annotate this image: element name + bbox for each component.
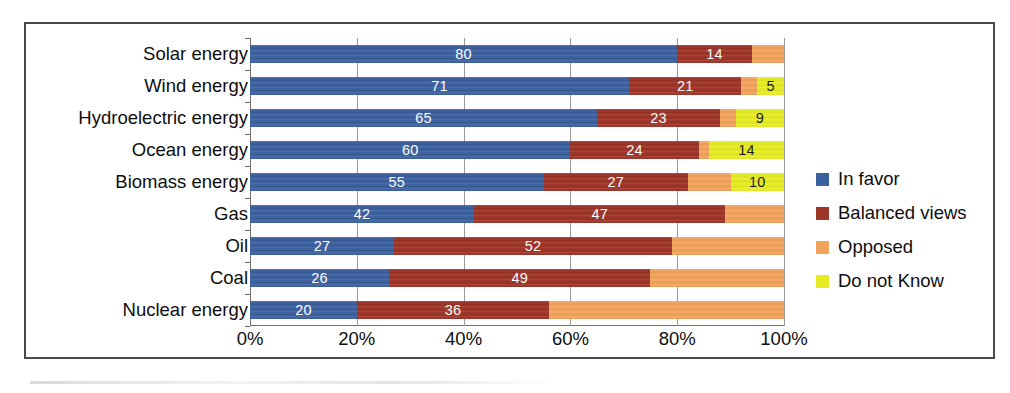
bar-segment-balanced-views[interactable]: 23 [597,109,720,127]
y-tick-mark [245,294,250,295]
x-tick-label-60%: 60% [552,330,589,349]
y-tick-mark [245,166,250,167]
x-axis-tick-labels: 0%20%40%60%80%100% [250,330,784,356]
bar-value-label: 23 [597,109,720,127]
bar-segment-do-not-know[interactable]: 5 [757,77,784,95]
bar-segment-do-not-know[interactable]: 10 [731,173,784,191]
bar-value-label: 5 [757,77,784,95]
bar-segment-in-favor[interactable]: 71 [250,77,629,95]
bar-value-label: 21 [629,77,741,95]
bar-segment-balanced-views[interactable]: 52 [394,237,672,255]
category-label-oil: Oil [36,237,248,256]
y-tick-mark [245,70,250,71]
plot-area: 8014712156523960241455271042472752264920… [250,38,784,326]
bar-value-label: 27 [250,237,394,255]
legend-item-balanced-views[interactable]: Balanced views [816,196,996,230]
bar-segment-balanced-views[interactable]: 24 [570,141,698,159]
bar-value-label: 14 [677,45,752,63]
category-label-ocean-energy: Ocean energy [36,141,248,160]
bar-row[interactable]: 2036 [250,301,784,319]
y-tick-mark [245,326,250,327]
bar-value-label: 27 [544,173,688,191]
bar-segment-opposed[interactable] [752,45,784,63]
category-label-gas: Gas [36,205,248,224]
bar-segment-opposed[interactable] [650,269,784,287]
bar-value-label: 24 [570,141,698,159]
x-tick-label-40%: 40% [445,330,482,349]
bar-segment-do-not-know[interactable]: 9 [736,109,784,127]
scan-artifact [30,381,550,384]
chart-legend: In favorBalanced viewsOpposedDo not Know [816,162,996,298]
legend-swatch-icon [816,241,829,254]
bar-value-label: 60 [250,141,570,159]
bar-segment-balanced-views[interactable]: 27 [544,173,688,191]
bar-value-label: 49 [389,269,651,287]
bar-segment-balanced-views[interactable]: 14 [677,45,752,63]
y-tick-mark [245,198,250,199]
category-label-solar-energy: Solar energy [36,45,248,64]
bar-value-label: 47 [474,205,725,223]
category-label-biomass-energy: Biomass energy [36,173,248,192]
bar-segment-balanced-views[interactable]: 47 [474,205,725,223]
legend-label: Do not Know [838,272,944,291]
bar-row[interactable]: 2752 [250,237,784,255]
bar-segment-do-not-know[interactable]: 14 [709,141,784,159]
y-tick-mark [245,262,250,263]
x-tick-label-0%: 0% [237,330,264,349]
bar-value-label: 65 [250,109,597,127]
bar-segment-in-favor[interactable]: 20 [250,301,357,319]
bar-value-label: 14 [709,141,784,159]
bar-value-label: 26 [250,269,389,287]
x-axis-line [250,325,784,326]
bar-segment-opposed[interactable] [688,173,731,191]
legend-swatch-icon [816,207,829,220]
bar-segment-in-favor[interactable]: 80 [250,45,677,63]
category-label-hydroelectric-energy: Hydroelectric energy [36,109,248,128]
bar-segment-opposed[interactable] [549,301,784,319]
x-tick-label-100%: 100% [760,330,807,349]
bar-value-label: 71 [250,77,629,95]
bar-row[interactable]: 65239 [250,109,784,127]
bar-row[interactable]: 8014 [250,45,784,63]
bar-value-label: 36 [357,301,549,319]
x-tick-label-80%: 80% [659,330,696,349]
legend-label: Opposed [838,238,913,257]
bar-segment-balanced-views[interactable]: 36 [357,301,549,319]
bar-segment-opposed[interactable] [699,141,710,159]
bar-segment-opposed[interactable] [720,109,736,127]
y-tick-mark [245,230,250,231]
category-label-nuclear-energy: Nuclear energy [36,301,248,320]
x-tick-label-20%: 20% [338,330,375,349]
bar-segment-in-favor[interactable]: 42 [250,205,474,223]
bar-segment-in-favor[interactable]: 55 [250,173,544,191]
bar-segment-in-favor[interactable]: 65 [250,109,597,127]
legend-item-in-favor[interactable]: In favor [816,162,996,196]
y-tick-mark [245,38,250,39]
legend-item-do-not-know[interactable]: Do not Know [816,264,996,298]
bar-row[interactable]: 2649 [250,269,784,287]
legend-label: Balanced views [838,204,967,223]
category-axis: Solar energyWind energyHydroelectric ene… [36,38,248,326]
bar-value-label: 52 [394,237,672,255]
bar-segment-opposed[interactable] [672,237,784,255]
bar-segment-balanced-views[interactable]: 49 [389,269,651,287]
bar-value-label: 9 [736,109,784,127]
legend-swatch-icon [816,275,829,288]
legend-item-opposed[interactable]: Opposed [816,230,996,264]
bar-segment-in-favor[interactable]: 27 [250,237,394,255]
bar-value-label: 80 [250,45,677,63]
bar-row[interactable]: 552710 [250,173,784,191]
bar-segment-balanced-views[interactable]: 21 [629,77,741,95]
bar-value-label: 10 [731,173,784,191]
bar-row[interactable]: 602414 [250,141,784,159]
bar-segment-in-favor[interactable]: 60 [250,141,570,159]
bar-value-label: 55 [250,173,544,191]
bar-segment-opposed[interactable] [725,205,784,223]
bar-segment-in-favor[interactable]: 26 [250,269,389,287]
bar-row[interactable]: 71215 [250,77,784,95]
chart-frame: Solar energyWind energyHydroelectric ene… [24,22,995,359]
bar-row[interactable]: 4247 [250,205,784,223]
gridline-100% [784,38,785,326]
bar-segment-opposed[interactable] [741,77,757,95]
bar-value-label: 42 [250,205,474,223]
